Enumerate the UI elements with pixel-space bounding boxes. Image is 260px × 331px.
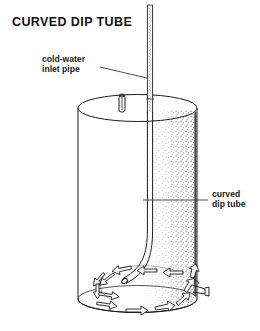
label-cold-water-inlet: cold-water inlet pipe [42, 54, 86, 74]
flow-arrow [126, 306, 148, 315]
label-dip-tube-line2: dip tube [212, 199, 246, 209]
cold-water-inlet-pipe [146, 5, 153, 113]
label-curved-dip-tube: curved dip tube [212, 189, 246, 209]
top-port-fitting [119, 94, 125, 112]
page-title: CURVED DIP TUBE [12, 15, 132, 29]
leader-cold-water-inlet [100, 67, 147, 78]
tank-top-ellipse [78, 95, 197, 122]
label-cold-water-line1: cold-water [42, 54, 86, 64]
flow-arrow [112, 266, 132, 275]
curved-dip-tube-diagram: CURVED DIP TUBE [0, 0, 260, 331]
flow-arrow [97, 301, 117, 309]
label-cold-water-line2: inlet pipe [42, 64, 80, 74]
diagram-canvas: CURVED DIP TUBE [0, 0, 260, 331]
nozzle-flange [205, 287, 209, 296]
dip-tube-mouth [121, 277, 128, 284]
label-dip-tube-line1: curved [212, 189, 240, 199]
inlet-pipe-texture [147, 5, 152, 112]
